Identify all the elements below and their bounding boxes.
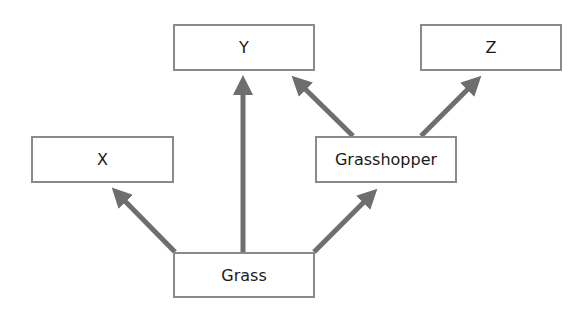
node-x: X — [31, 136, 174, 183]
node-y-label: Y — [239, 38, 249, 57]
arrow-grass-to-grasshopper — [314, 195, 371, 252]
arrow-grasshopper-to-z — [421, 82, 475, 136]
node-grasshopper-label: Grasshopper — [335, 150, 437, 169]
arrow-grass-to-x — [118, 194, 175, 252]
node-y: Y — [173, 24, 315, 71]
node-grass: Grass — [173, 252, 315, 298]
node-z-label: Z — [486, 38, 497, 57]
node-grasshopper: Grasshopper — [315, 136, 457, 183]
node-x-label: X — [97, 150, 108, 169]
arrow-grasshopper-to-y — [298, 82, 353, 136]
node-grass-label: Grass — [221, 266, 266, 285]
node-z: Z — [420, 24, 562, 71]
